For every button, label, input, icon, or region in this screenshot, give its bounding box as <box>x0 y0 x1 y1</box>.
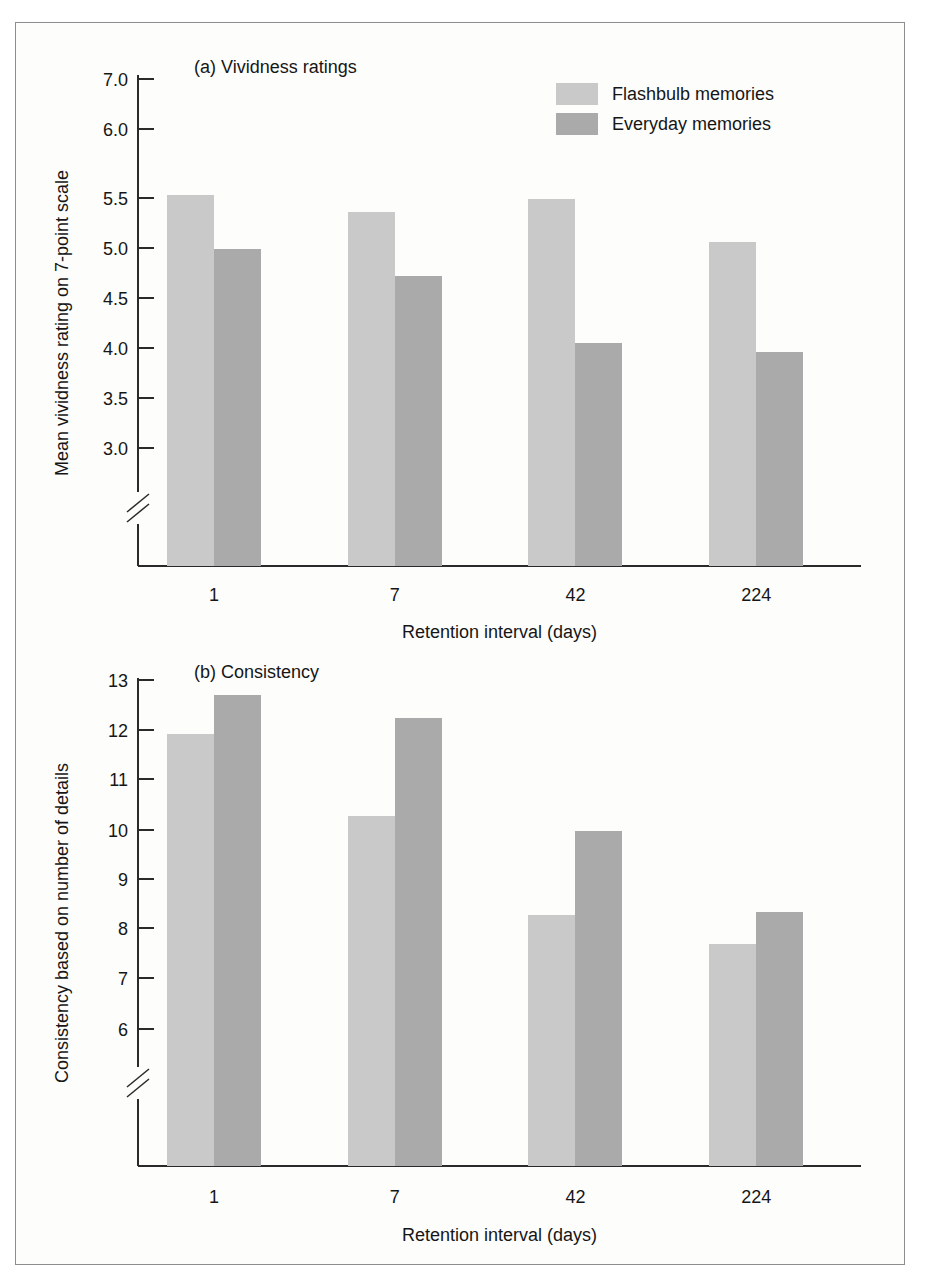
y-tick-label-panel-a-3: 4.5 <box>103 289 128 309</box>
x-tick-label-panel-b-3: 224 <box>741 1187 771 1207</box>
y-tick-label-panel-a-6: 6.0 <box>103 120 128 140</box>
y-tick-label-panel-b-5: 11 <box>109 770 128 790</box>
y-tick-label-panel-b-4: 10 <box>108 821 128 841</box>
y-axis-title-panel-b: Consistency based on number of details <box>52 763 72 1083</box>
bar-group-panel-a-0 <box>167 195 261 566</box>
panel-title-panel-a: (a) Vividness ratings <box>194 57 357 77</box>
legend-label-flashbulb: Flashbulb memories <box>612 84 774 104</box>
bar-panel-a-42-everyday <box>575 343 622 566</box>
x-tick-label-panel-b-1: 7 <box>390 1187 400 1207</box>
bar-group-panel-b-3 <box>709 912 803 1166</box>
bar-panel-a-7-flashbulb <box>348 212 395 566</box>
x-axis-title-panel-a: Retention interval (days) <box>402 622 597 642</box>
y-tick-label-panel-a-2: 4.0 <box>103 339 128 359</box>
x-tick-label-panel-a-3: 224 <box>741 585 771 605</box>
y-axis-title-panel-a: Mean vividness rating on 7-point scale <box>52 170 72 476</box>
bar-panel-b-7-flashbulb <box>348 816 395 1166</box>
bar-group-panel-b-2 <box>528 831 622 1166</box>
bar-group-panel-a-1 <box>348 212 442 566</box>
bar-panel-b-1-flashbulb <box>167 734 214 1166</box>
y-tick-label-panel-a-0: 3.0 <box>103 439 128 459</box>
y-tick-label-panel-a-4: 5.0 <box>103 239 128 259</box>
y-tick-label-panel-b-2: 8 <box>118 919 128 939</box>
bar-panel-a-224-flashbulb <box>709 242 756 566</box>
bar-panel-b-224-everyday <box>756 912 803 1166</box>
bar-group-panel-a-2 <box>528 199 622 566</box>
x-tick-label-panel-a-2: 42 <box>565 585 585 605</box>
y-tick-label-panel-a-5: 5.5 <box>103 189 128 209</box>
y-tick-label-panel-a-7: 7.0 <box>103 70 128 90</box>
x-tick-label-panel-b-0: 1 <box>209 1187 219 1207</box>
x-tick-label-panel-a-0: 1 <box>209 585 219 605</box>
bar-panel-a-42-flashbulb <box>528 199 575 566</box>
bar-panel-b-42-everyday <box>575 831 622 1166</box>
legend-swatch-everyday <box>556 113 598 135</box>
axis-break-slash-2 <box>127 504 149 522</box>
bar-panel-b-42-flashbulb <box>528 915 575 1166</box>
x-tick-label-panel-a-1: 7 <box>390 585 400 605</box>
y-tick-label-panel-b-7: 13 <box>108 671 128 691</box>
panel-a: 3.03.54.04.55.05.56.07.0Mean vividness r… <box>52 57 861 642</box>
x-axis-title-panel-b: Retention interval (days) <box>402 1225 597 1245</box>
axis-break-panel-a <box>127 494 149 522</box>
legend-label-everyday: Everyday memories <box>612 114 771 134</box>
figure-frame: 3.03.54.04.55.05.56.07.0Mean vividness r… <box>15 22 905 1265</box>
legend-swatch-flashbulb <box>556 83 598 105</box>
y-tick-label-panel-b-3: 9 <box>118 870 128 890</box>
legend: Flashbulb memoriesEveryday memories <box>556 83 774 135</box>
bar-panel-a-7-everyday <box>395 276 442 566</box>
y-tick-label-panel-b-6: 12 <box>108 721 128 741</box>
y-tick-label-panel-a-1: 3.5 <box>103 389 128 409</box>
panel-title-panel-b: (b) Consistency <box>194 662 319 682</box>
bar-group-panel-a-3 <box>709 242 803 566</box>
y-tick-label-panel-b-0: 6 <box>118 1020 128 1040</box>
bar-group-panel-b-1 <box>348 718 442 1166</box>
bar-group-panel-b-0 <box>167 695 261 1166</box>
bar-panel-a-1-flashbulb <box>167 195 214 566</box>
y-tick-label-panel-b-1: 7 <box>118 969 128 989</box>
bar-panel-a-224-everyday <box>756 352 803 566</box>
axis-break-slash-2 <box>127 1079 149 1097</box>
bar-panel-b-224-flashbulb <box>709 944 756 1167</box>
axis-break-panel-b <box>127 1069 149 1097</box>
x-tick-label-panel-b-2: 42 <box>565 1187 585 1207</box>
panel-b: 678910111213Consistency based on number … <box>52 662 861 1245</box>
bar-panel-a-1-everyday <box>214 249 261 566</box>
bar-panel-b-1-everyday <box>214 695 261 1166</box>
axis-break-slash-1 <box>127 1069 149 1087</box>
bar-panel-b-7-everyday <box>395 718 442 1166</box>
axis-break-slash-1 <box>127 494 149 512</box>
vividness-and-consistency-figure: 3.03.54.04.55.05.56.07.0Mean vividness r… <box>16 23 906 1266</box>
